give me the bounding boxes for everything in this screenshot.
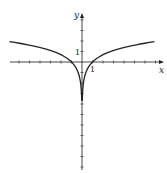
axis-ticks bbox=[19, 20, 156, 167]
curve-left bbox=[10, 42, 82, 101]
x-axis-label: x bbox=[159, 65, 164, 75]
x-axis-arrow-icon bbox=[159, 60, 164, 64]
x-tick-label-1: 1 bbox=[90, 65, 95, 74]
chart: x y 1 1 bbox=[0, 0, 167, 173]
y-axis-label: y bbox=[73, 10, 80, 20]
y-tick-label-1: 1 bbox=[75, 48, 80, 57]
y-axis-arrow-icon bbox=[80, 13, 84, 18]
